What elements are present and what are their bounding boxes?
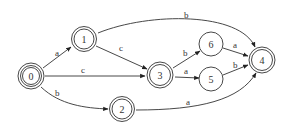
node-4: 4	[249, 47, 275, 73]
node-3: 3	[147, 62, 173, 88]
svg-text:b: b	[183, 48, 188, 58]
svg-text:6: 6	[209, 39, 214, 50]
edge-0-1: a	[43, 47, 71, 68]
node-0: 0	[18, 63, 44, 89]
svg-text:c: c	[81, 65, 85, 75]
edge-0-2: b	[41, 87, 108, 109]
svg-text:a: a	[184, 66, 188, 76]
svg-text:2: 2	[120, 104, 125, 115]
edge-6-4: a	[223, 40, 248, 56]
svg-text:c: c	[119, 43, 123, 53]
edge-0-3: c	[45, 65, 145, 76]
edge-5-4: b	[223, 60, 248, 75]
svg-text:a: a	[186, 97, 190, 107]
svg-text:b: b	[55, 88, 60, 98]
edge-3-5: a	[175, 66, 199, 78]
node-1: 1	[72, 27, 97, 52]
node-6: 6	[199, 32, 223, 56]
svg-text:4: 4	[260, 55, 265, 66]
node-2: 2	[110, 97, 135, 122]
node-5: 5	[199, 67, 223, 91]
edge-1-3: c	[96, 43, 147, 69]
edge-1-4: b	[98, 10, 255, 47]
svg-text:1: 1	[82, 34, 87, 45]
svg-text:a: a	[233, 40, 237, 50]
svg-text:b: b	[184, 10, 189, 20]
svg-text:0: 0	[29, 71, 34, 82]
svg-text:5: 5	[209, 74, 214, 85]
edge-3-6: b	[173, 48, 200, 68]
svg-text:3: 3	[158, 70, 163, 81]
svg-text:b: b	[233, 60, 238, 70]
svg-text:a: a	[55, 48, 59, 58]
automaton-diagram: a c b c b a b a a b 0	[0, 0, 290, 135]
